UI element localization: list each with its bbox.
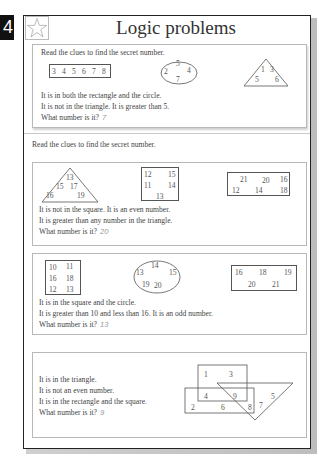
number: 12 xyxy=(232,186,240,195)
number: 12 xyxy=(144,170,152,179)
section-instruction: Read the clues to find the secret number… xyxy=(32,140,156,150)
number: 5 xyxy=(255,75,259,84)
clue-text: It is in the triangle. xyxy=(39,375,97,385)
number: 7 xyxy=(176,75,180,84)
square-shape: 12 15 11 14 13 xyxy=(141,167,179,201)
answer: 7 xyxy=(102,113,106,122)
clue-text: It is in both the rectangle and the circ… xyxy=(41,91,161,101)
section-divider xyxy=(24,133,310,134)
question-text: What number is it?9 xyxy=(39,408,104,418)
question-text: What number is it?20 xyxy=(39,227,108,237)
number: 20 xyxy=(262,176,270,185)
number: 7 xyxy=(259,401,263,410)
question-label: What number is it? xyxy=(39,227,97,236)
square-shape: 10 11 16 18 12 13 xyxy=(45,260,81,295)
number: 14 xyxy=(168,181,176,190)
number: 18 xyxy=(66,274,74,283)
number: 3 xyxy=(270,65,274,74)
clue-text: It is greater than 10 and less than 16. … xyxy=(39,309,213,319)
instruction-text: Read the clues to find the secret number… xyxy=(41,48,165,58)
question-label: What number is it? xyxy=(39,320,97,329)
problem-1: 13 15 17 16 19 12 15 11 14 13 21 20 16 1… xyxy=(32,162,307,246)
number: 9 xyxy=(233,392,237,401)
number: 15 xyxy=(168,170,176,179)
number: 2 xyxy=(164,67,168,76)
number: 19 xyxy=(142,280,150,289)
number: 13 xyxy=(136,268,144,277)
question-label: What number is it? xyxy=(41,113,99,122)
number: 18 xyxy=(280,186,288,195)
question-text: What number is it?13 xyxy=(39,320,108,330)
number: 6 xyxy=(221,403,225,412)
number: 12 xyxy=(49,285,57,294)
page-title: Logic problems xyxy=(50,14,302,42)
number: 20 xyxy=(248,280,256,289)
number: 5 xyxy=(72,67,76,76)
venn-diagram xyxy=(185,365,305,427)
question-text: What number is it?7 xyxy=(41,113,106,123)
number: 11 xyxy=(144,181,151,190)
clue-text: It is in the square and the circle. xyxy=(39,298,136,308)
number: 4 xyxy=(204,392,208,401)
triangle-shape xyxy=(243,58,289,88)
number: 8 xyxy=(248,403,252,412)
number: 19 xyxy=(284,268,292,277)
answer: 9 xyxy=(100,408,104,417)
clue-text: It is not in the square. It is an even n… xyxy=(39,205,170,215)
number: 11 xyxy=(66,262,73,271)
number: 17 xyxy=(70,182,78,191)
clue-text: It is not an even number. xyxy=(39,386,114,396)
star-icon-box xyxy=(25,16,49,40)
number: 16 xyxy=(49,274,57,283)
number: 5 xyxy=(176,59,180,68)
number: 14 xyxy=(255,186,263,195)
example-problem: Read the clues to find the secret number… xyxy=(32,44,307,128)
number: 6 xyxy=(275,75,279,84)
number: 16 xyxy=(46,191,54,200)
number: 15 xyxy=(56,182,64,191)
number: 21 xyxy=(240,175,248,184)
star-icon xyxy=(26,17,48,39)
number: 1 xyxy=(204,370,208,379)
number: 4 xyxy=(187,66,191,75)
number: 7 xyxy=(92,67,96,76)
answer: 13 xyxy=(100,320,108,329)
number: 3 xyxy=(52,67,56,76)
rectangle-shape: 16 18 19 20 21 xyxy=(231,265,297,291)
number: 20 xyxy=(154,281,162,290)
problem-2: 10 11 16 18 12 13 14 13 15 19 20 16 18 1… xyxy=(32,253,307,335)
number: 14 xyxy=(151,261,159,270)
rectangle-shape: 21 20 16 12 14 18 xyxy=(227,172,290,196)
number: 8 xyxy=(102,67,106,76)
number: 13 xyxy=(66,173,74,182)
triangle-shape xyxy=(217,383,293,420)
number: 15 xyxy=(169,268,177,277)
number: 21 xyxy=(272,280,280,289)
number: 6 xyxy=(82,67,86,76)
clue-text: It is not in the triangle. It is greater… xyxy=(41,102,169,112)
number: 4 xyxy=(62,67,66,76)
number: 16 xyxy=(280,175,288,184)
number: 18 xyxy=(259,268,267,277)
problem-3: It is in the triangle. It is not an even… xyxy=(32,352,307,438)
rectangle-shape: 3 4 5 6 7 8 xyxy=(49,64,111,78)
number: 1 xyxy=(261,65,265,74)
number: 13 xyxy=(156,192,164,201)
number: 10 xyxy=(49,263,57,272)
number: 19 xyxy=(77,191,85,200)
clue-text: It is in the rectangle and the square. xyxy=(39,397,147,407)
page-number: 4 xyxy=(0,15,14,40)
number: 5 xyxy=(271,392,275,401)
number: 3 xyxy=(229,370,233,379)
number: 2 xyxy=(191,403,195,412)
answer: 20 xyxy=(100,227,108,236)
number: 13 xyxy=(66,285,74,294)
number: 16 xyxy=(235,268,243,277)
question-label: What number is it? xyxy=(39,408,97,417)
clue-text: It is greater than any number in the tri… xyxy=(39,216,172,226)
